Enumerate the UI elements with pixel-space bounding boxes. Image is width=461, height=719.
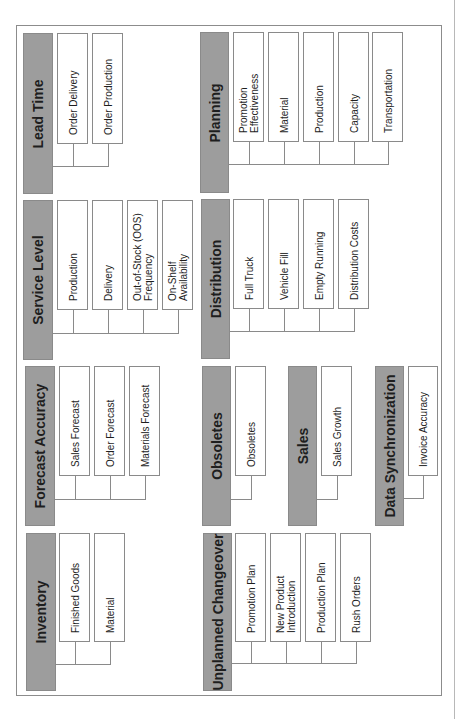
- connector-stem: [388, 142, 389, 165]
- leaf-box: On-Shelf Availability: [162, 200, 193, 310]
- group-title: Obsoletes: [209, 412, 225, 480]
- connector-line-lead-time: [53, 166, 109, 167]
- group-title: Distribution: [208, 240, 224, 319]
- leaf-box: Finished Goods: [59, 533, 90, 642]
- leaf-box: Sales Growth: [321, 366, 352, 476]
- leaf-label: New Product Introduction: [275, 576, 297, 633]
- connector-stem: [73, 144, 74, 167]
- connector-stem: [319, 142, 320, 165]
- group-header-sales: Sales: [288, 366, 317, 526]
- leaf-label: Vehicle Fill: [279, 252, 290, 300]
- group-header-obsoletes: Obsoletes: [202, 366, 231, 526]
- group-title: Sales: [295, 428, 311, 465]
- group-header-distribution: Distribution: [201, 199, 230, 359]
- leaf-box: Transportation: [372, 32, 403, 142]
- connector-stem: [108, 310, 109, 334]
- connector-stem: [354, 309, 355, 332]
- group-header-inventory: Inventory: [26, 533, 56, 691]
- leaf-box: Delivery: [92, 200, 123, 310]
- leaf-box: Sales Forecast: [59, 366, 90, 476]
- connector-line-data-synchronization: [404, 498, 424, 499]
- connector-line-sales: [317, 499, 338, 500]
- leaf-label: Transportation: [383, 69, 394, 133]
- connector-stem: [110, 476, 111, 500]
- group-title: Planning: [207, 83, 223, 142]
- leaf-box: Materials Forecast: [129, 366, 160, 476]
- leaf-box: Rush Orders: [340, 533, 371, 642]
- leaf-label: Order Delivery: [68, 71, 79, 135]
- connector-stem: [319, 309, 320, 332]
- connector-stem: [251, 476, 252, 500]
- leaf-label: Sales Growth: [332, 407, 343, 467]
- leaf-label: Order Forecast: [105, 400, 116, 467]
- group-header-lead-time: Lead Time: [23, 33, 53, 194]
- group-title: Data Synchronization: [382, 374, 398, 517]
- connector-line-planning: [229, 164, 389, 165]
- leaf-box: Obsoletes: [235, 366, 266, 476]
- connector-stem: [251, 642, 252, 664]
- group-header-data-synchronization: Data Synchronization: [375, 366, 404, 526]
- leaf-label: Distribution Costs: [349, 222, 360, 300]
- leaf-label: Promotion Plan: [246, 565, 257, 633]
- group-header-planning: Planning: [200, 32, 229, 193]
- group-title: Unplanned Changeover: [210, 533, 226, 690]
- connector-stem: [249, 142, 250, 165]
- group-title: Inventory: [33, 580, 49, 643]
- leaf-box: Vehicle Fill: [268, 199, 299, 309]
- connector-stem: [143, 310, 144, 334]
- connector-line-service-level: [53, 333, 179, 334]
- leaf-label: Out-of-Stock (OOS) Frequency: [132, 213, 154, 301]
- connector-stem: [73, 310, 74, 334]
- connector-line-inventory: [56, 664, 111, 665]
- leaf-label: Order Production: [103, 59, 114, 135]
- leaf-label: Full Truck: [244, 257, 255, 300]
- connector-stem: [110, 642, 111, 665]
- leaf-box: Promotion Plan: [235, 533, 266, 642]
- leaf-label: Delivery: [103, 265, 114, 301]
- connector-line-obsoletes: [231, 499, 252, 500]
- group-title: Service Level: [30, 235, 46, 325]
- group-title: Forecast Accuracy: [32, 384, 48, 509]
- leaf-box: Production Plan: [305, 533, 336, 642]
- leaf-box: Distribution Costs: [338, 199, 369, 309]
- leaf-box: Full Truck: [233, 199, 264, 309]
- leaf-label: Invoice Accuracy: [418, 392, 429, 467]
- leaf-box: Order Production: [92, 33, 123, 144]
- group-header-forecast-accuracy: Forecast Accuracy: [25, 366, 55, 526]
- leaf-box: Invoice Accuracy: [408, 366, 438, 476]
- connector-stem: [108, 144, 109, 167]
- leaf-label: Production Plan: [316, 562, 327, 633]
- leaf-box: New Product Introduction: [270, 533, 301, 642]
- leaf-label: Rush Orders: [351, 576, 362, 633]
- page-edge-line: [454, 0, 455, 719]
- leaf-label: On-Shelf Availability: [167, 254, 189, 301]
- leaf-label: Materials Forecast: [140, 385, 151, 467]
- connector-stem: [354, 142, 355, 165]
- connector-stem: [286, 642, 287, 664]
- leaf-box: Material: [268, 32, 299, 142]
- connector-stem: [356, 642, 357, 664]
- connector-line-forecast-accuracy: [55, 499, 146, 500]
- connector-stem: [321, 642, 322, 664]
- leaf-label: Production: [314, 85, 325, 133]
- leaf-label: Sales Forecast: [70, 400, 81, 467]
- leaf-label: Capacity: [349, 94, 360, 133]
- leaf-box: Capacity: [338, 32, 369, 142]
- leaf-box: Production: [57, 200, 88, 310]
- leaf-label: Empty Running: [314, 232, 325, 300]
- connector-stem: [284, 142, 285, 165]
- group-header-unplanned-changeover: Unplanned Changeover: [203, 533, 232, 691]
- connector-stem: [75, 642, 76, 665]
- connector-stem: [249, 309, 250, 332]
- connector-stem: [75, 476, 76, 500]
- connector-stem: [423, 476, 424, 499]
- connector-stem: [145, 476, 146, 500]
- leaf-label: Production: [68, 253, 79, 301]
- connector-stem: [337, 476, 338, 500]
- leaf-box: Promotion Effectiveness: [233, 32, 264, 142]
- leaf-box: Order Delivery: [57, 33, 88, 144]
- group-title: Lead Time: [30, 79, 46, 148]
- leaf-box: Order Forecast: [94, 366, 125, 476]
- group-header-service-level: Service Level: [23, 200, 53, 360]
- leaf-label: Promotion Effectiveness: [238, 74, 260, 133]
